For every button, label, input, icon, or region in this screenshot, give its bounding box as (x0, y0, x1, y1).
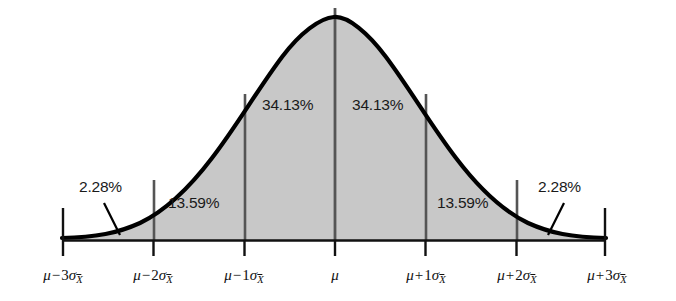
axis-label-mu-glyph: μ (43, 267, 51, 283)
axis-label-sigma-glyph: σ (69, 267, 76, 283)
axis-label-sigma-glyph: σ (250, 267, 257, 283)
axis-label-operator: + (595, 267, 605, 283)
axis-label-sigma-glyph: σ (159, 267, 166, 283)
axis-label-plus-2-sigma: μ+2σX (497, 268, 536, 285)
axis-label-mu-glyph: μ (133, 267, 141, 283)
axis-label-mu-glyph: μ (331, 267, 339, 283)
axis-label-operator: − (51, 267, 61, 283)
axis-label-mu: μ (331, 268, 339, 283)
percent-label-right-tail: 2.28% (538, 178, 581, 196)
axis-label-xbar-subscript: X (530, 274, 536, 286)
axis-label-mu-glyph: μ (406, 267, 414, 283)
axis-label-xbar-subscript: X (166, 274, 172, 286)
percent-label-left-mid: 13.59% (168, 194, 219, 212)
axis-label-minus-3-sigma: μ−3σX (43, 268, 82, 285)
axis-label-mu-glyph: μ (224, 267, 232, 283)
axis-label-multiplier: 3 (61, 267, 69, 283)
axis-label-operator: − (232, 267, 242, 283)
axis-label-mu-glyph: μ (497, 267, 505, 283)
axis-label-multiplier: 2 (515, 267, 523, 283)
axis-label-minus-2-sigma: μ−2σX (133, 268, 172, 285)
axis-label-operator: − (141, 267, 151, 283)
axis-label-multiplier: 3 (605, 267, 613, 283)
percent-label-left-tail: 2.28% (79, 178, 122, 196)
axis-label-xbar-subscript: X (76, 274, 82, 286)
axis-label-xbar-subscript: X (620, 274, 626, 286)
leader-line-right-tail (548, 203, 564, 235)
percent-label-right-center: 34.13% (352, 96, 403, 114)
axis-label-xbar-subscript: X (257, 274, 263, 286)
distribution-plot (0, 0, 676, 301)
axis-label-operator: + (505, 267, 515, 283)
axis-label-mu-glyph: μ (587, 267, 595, 283)
leader-line-left-tail (104, 203, 120, 235)
axis-label-minus-1-sigma: μ−1σX (224, 268, 263, 285)
axis-label-multiplier: 1 (242, 267, 250, 283)
normal-distribution-figure: 2.28% 13.59% 34.13% 34.13% 13.59% 2.28% … (0, 0, 676, 301)
axis-label-plus-3-sigma: μ+3σX (587, 268, 626, 285)
axis-label-operator: + (414, 267, 424, 283)
axis-label-plus-1-sigma: μ+1σX (406, 268, 445, 285)
axis-label-multiplier: 1 (424, 267, 432, 283)
axis-label-multiplier: 2 (151, 267, 159, 283)
percent-label-right-mid: 13.59% (437, 194, 488, 212)
axis-label-xbar-subscript: X (439, 274, 445, 286)
axis-label-sigma-glyph: σ (613, 267, 620, 283)
axis-label-sigma-glyph: σ (432, 267, 439, 283)
axis-label-sigma-glyph: σ (523, 267, 530, 283)
percent-label-left-center: 34.13% (262, 96, 313, 114)
